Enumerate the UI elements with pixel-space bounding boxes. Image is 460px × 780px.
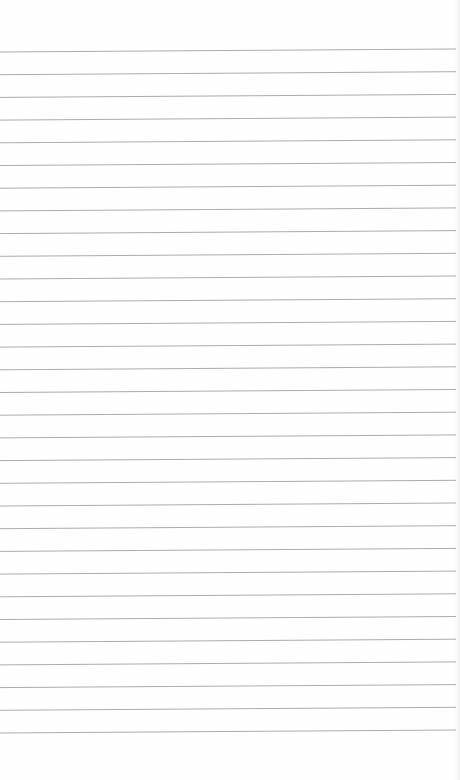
ruled-line bbox=[0, 367, 456, 370]
ruled-line bbox=[0, 548, 456, 551]
ruled-line bbox=[0, 390, 456, 393]
ruled-lines bbox=[0, 0, 460, 780]
ruled-line bbox=[0, 662, 456, 665]
ruled-line bbox=[0, 344, 456, 347]
ruled-line bbox=[0, 253, 456, 256]
ruled-line bbox=[0, 617, 456, 620]
ruled-line bbox=[0, 480, 456, 483]
ruled-line bbox=[0, 163, 456, 166]
ruled-line bbox=[0, 503, 456, 506]
ruled-line bbox=[0, 140, 456, 143]
ruled-line bbox=[0, 594, 456, 597]
ruled-line bbox=[0, 299, 456, 302]
ruled-line bbox=[0, 685, 456, 688]
ruled-line bbox=[0, 49, 456, 52]
ruled-line bbox=[0, 231, 456, 234]
ruled-line bbox=[0, 730, 456, 733]
lined-paper-sheet bbox=[0, 0, 460, 780]
ruled-line bbox=[0, 208, 456, 211]
ruled-line bbox=[0, 185, 456, 188]
ruled-line bbox=[0, 412, 456, 415]
page-edge-shadow bbox=[454, 0, 460, 780]
ruled-line bbox=[0, 321, 456, 324]
ruled-line bbox=[0, 117, 456, 120]
ruled-line bbox=[0, 707, 456, 710]
ruled-line bbox=[0, 458, 456, 461]
ruled-line bbox=[0, 435, 456, 438]
ruled-line bbox=[0, 526, 456, 529]
ruled-line bbox=[0, 276, 456, 279]
ruled-line bbox=[0, 571, 456, 574]
ruled-line bbox=[0, 639, 456, 642]
ruled-line bbox=[0, 72, 456, 75]
ruled-line bbox=[0, 94, 456, 97]
